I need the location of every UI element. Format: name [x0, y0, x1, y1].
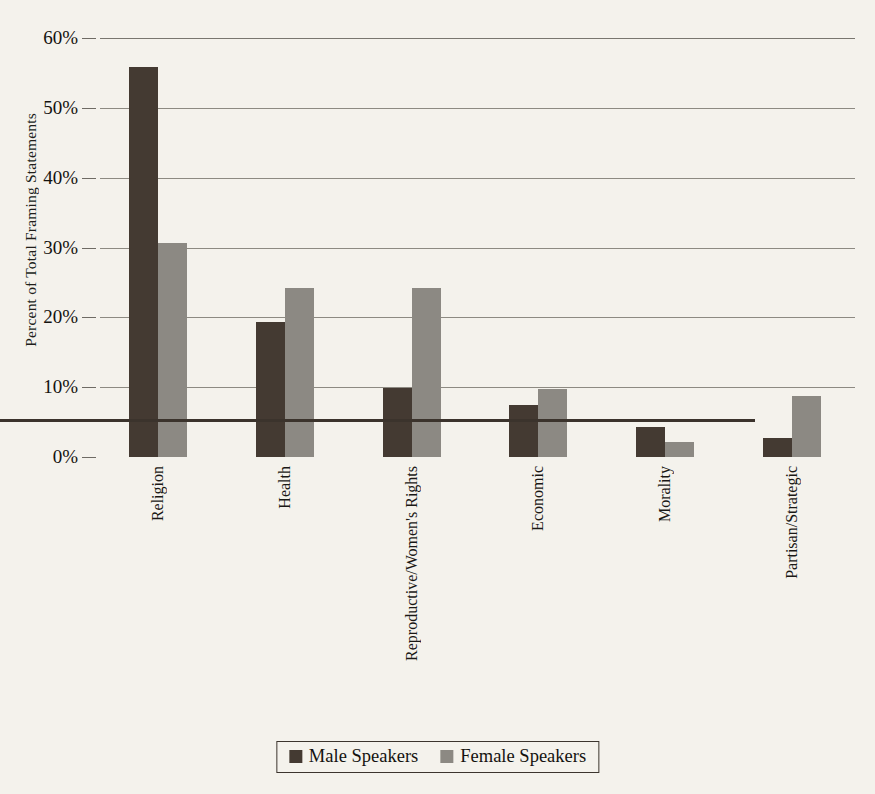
bar-male-speakers-reproductive-women-s-rights	[383, 388, 412, 457]
bar-female-speakers-partisan-strategic	[792, 396, 821, 457]
legend-label-male: Male Speakers	[309, 746, 418, 767]
y-tick-mark-50%	[82, 108, 96, 109]
legend-entry-male: Male Speakers	[289, 746, 418, 767]
bar-male-speakers-religion	[129, 67, 158, 457]
chart-legend: Male Speakers Female Speakers	[276, 741, 599, 773]
y-tick-label-0%: 0%	[18, 446, 78, 468]
y-tick-mark-20%	[82, 317, 96, 318]
gridline-10%	[100, 387, 855, 388]
y-tick-mark-40%	[82, 178, 96, 179]
y-tick-mark-10%	[82, 387, 96, 388]
y-tick-mark-60%	[82, 38, 96, 39]
x-tick-label-economic: Economic	[526, 466, 550, 531]
legend-swatch-male-icon	[289, 750, 302, 763]
bar-male-speakers-health	[256, 322, 285, 457]
y-tick-label-40%: 40%	[18, 167, 78, 189]
bar-female-speakers-reproductive-women-s-rights	[412, 288, 441, 457]
x-tick-label-text: Religion	[149, 466, 167, 521]
x-axis-line	[0, 419, 755, 422]
y-tick-label-20%: 20%	[18, 306, 78, 328]
x-tick-label-text: Economic	[529, 466, 547, 531]
y-tick-label-50%: 50%	[18, 97, 78, 119]
x-tick-label-text: Morality	[656, 466, 674, 522]
gridline-20%	[100, 317, 855, 318]
gridline-50%	[100, 108, 855, 109]
x-tick-label-health: Health	[273, 466, 297, 509]
x-tick-label-text: Reproductive/Women's Rights	[403, 466, 421, 661]
bar-female-speakers-religion	[158, 243, 187, 457]
x-tick-label-morality: Morality	[653, 466, 677, 522]
plot-area	[100, 38, 855, 457]
bar-male-speakers-partisan-strategic	[763, 438, 792, 457]
legend-entry-female: Female Speakers	[440, 746, 586, 767]
gridline-30%	[100, 248, 855, 249]
y-tick-mark-30%	[82, 248, 96, 249]
y-tick-label-30%: 30%	[18, 237, 78, 259]
gridline-60%	[100, 38, 855, 39]
x-tick-label-religion: Religion	[146, 466, 170, 521]
y-tick-label-10%: 10%	[18, 376, 78, 398]
x-tick-label-reproductive-women-s-rights: Reproductive/Women's Rights	[400, 466, 424, 661]
y-tick-label-60%: 60%	[18, 27, 78, 49]
x-tick-label-partisan-strategic: Partisan/Strategic	[780, 466, 804, 579]
legend-swatch-female-icon	[440, 750, 453, 763]
x-tick-label-text: Partisan/Strategic	[783, 466, 801, 579]
bar-female-speakers-health	[285, 288, 314, 457]
bar-female-speakers-economic	[538, 389, 567, 457]
bar-chart-figure: Percent of Total Framing Statements 0%10…	[0, 0, 875, 794]
x-tick-label-text: Health	[276, 466, 294, 509]
bar-male-speakers-economic	[509, 405, 538, 457]
bar-male-speakers-morality	[636, 427, 665, 457]
y-tick-mark-0%	[82, 457, 96, 458]
bar-female-speakers-morality	[665, 442, 694, 457]
gridline-40%	[100, 178, 855, 179]
legend-label-female: Female Speakers	[460, 746, 586, 767]
